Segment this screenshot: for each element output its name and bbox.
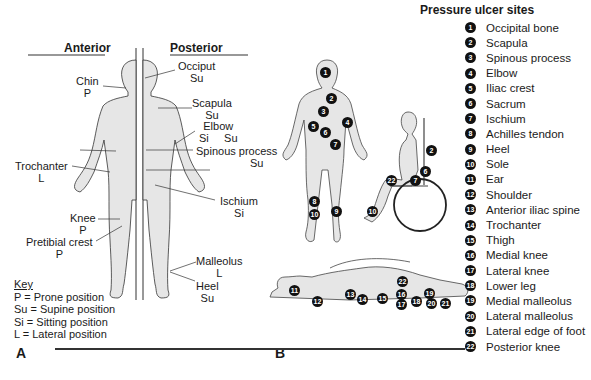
marker-7: 7 bbox=[330, 139, 341, 150]
number-badge-icon: 2 bbox=[465, 37, 476, 48]
number-badge-icon: 6 bbox=[465, 98, 476, 109]
number-badge-icon: 13 bbox=[465, 204, 476, 215]
number-badge-icon: 18 bbox=[465, 280, 476, 291]
bottom-divider bbox=[55, 348, 465, 350]
key-item: P = Prone position bbox=[14, 291, 115, 304]
number-badge-icon: 14 bbox=[465, 220, 476, 231]
marker-10: 10 bbox=[309, 209, 320, 220]
key-item: L = Lateral position bbox=[14, 328, 115, 341]
legend-item: 14Trochanter bbox=[465, 217, 585, 232]
legend-item: 6Sacrum bbox=[465, 96, 585, 111]
label-heel: HeelSu bbox=[196, 280, 219, 304]
key-item: Si = Sitting position bbox=[14, 316, 115, 329]
number-badge-icon: 11 bbox=[465, 174, 476, 185]
position-key: Key P = Prone position Su = Supine posit… bbox=[14, 278, 115, 341]
legend-item: 17Lateral knee bbox=[465, 263, 585, 278]
legend-item: 9Heel bbox=[465, 142, 585, 157]
label-elbow: ElbowSi Su bbox=[199, 120, 238, 144]
marker-2: 2 bbox=[326, 93, 337, 104]
marker-5: 5 bbox=[308, 121, 319, 132]
label-chin: ChinP bbox=[76, 75, 99, 99]
legend-item: 22Posterior knee bbox=[465, 339, 585, 354]
number-badge-icon: 22 bbox=[465, 341, 476, 352]
legend-item: 5Iliac crest bbox=[465, 81, 585, 96]
marker-13: 13 bbox=[345, 289, 356, 300]
number-badge-icon: 4 bbox=[465, 68, 476, 79]
number-badge-icon: 7 bbox=[465, 113, 476, 124]
marker-11: 11 bbox=[289, 285, 300, 296]
legend-item: 3Spinous process bbox=[465, 50, 585, 65]
pressure-ulcer-legend: Pressure ulcer sites 1Occipital bone 2Sc… bbox=[420, 3, 585, 354]
marker-22: 22 bbox=[397, 276, 408, 287]
number-badge-icon: 19 bbox=[465, 295, 476, 306]
legend-item: 13Anterior iliac spine bbox=[465, 202, 585, 217]
marker-17: 17 bbox=[396, 299, 407, 310]
legend-item: 4Elbow bbox=[465, 66, 585, 81]
label-occiput: OcciputSu bbox=[178, 60, 215, 84]
marker-14: 14 bbox=[357, 294, 368, 305]
number-badge-icon: 3 bbox=[465, 52, 476, 63]
number-badge-icon: 10 bbox=[465, 159, 476, 170]
legend-item: 12Shoulder bbox=[465, 187, 585, 202]
legend-item: 16Medial knee bbox=[465, 248, 585, 263]
label-trochanter: TrochanterL bbox=[15, 160, 68, 184]
legend-item: 7Ischium bbox=[465, 111, 585, 126]
number-badge-icon: 1 bbox=[465, 22, 476, 33]
marker-3: 3 bbox=[318, 106, 329, 117]
legend-item: 1Occipital bone bbox=[465, 20, 585, 35]
number-badge-icon: 9 bbox=[465, 144, 476, 155]
key-item: Su = Supine position bbox=[14, 303, 115, 316]
number-badge-icon: 12 bbox=[465, 189, 476, 200]
label-malleolus: MalleolusL bbox=[196, 255, 242, 279]
label-knee: KneeP bbox=[70, 212, 96, 236]
marker-22: 22 bbox=[386, 175, 397, 186]
label-pretibial-crest: Pretibial crestP bbox=[26, 236, 93, 260]
marker-12: 12 bbox=[312, 296, 323, 307]
label-spinous-process: Spinous processSu bbox=[196, 145, 277, 169]
header-posterior: Posterior bbox=[170, 41, 223, 55]
marker-6: 6 bbox=[320, 127, 331, 138]
legend-item: 20Lateral malleolus bbox=[465, 309, 585, 324]
label-ischium: IschiumSi bbox=[220, 195, 258, 219]
label-scapula: ScapulaSu bbox=[192, 97, 232, 121]
marker-15: 15 bbox=[377, 293, 388, 304]
legend-item: 18Lower leg bbox=[465, 278, 585, 293]
marker-1: 1 bbox=[320, 67, 331, 78]
marker-10: 10 bbox=[367, 206, 378, 217]
legend-item: 10Sole bbox=[465, 157, 585, 172]
number-badge-icon: 20 bbox=[465, 311, 476, 322]
number-badge-icon: 8 bbox=[465, 128, 476, 139]
number-badge-icon: 16 bbox=[465, 250, 476, 261]
legend-item: 21Lateral edge of foot bbox=[465, 324, 585, 339]
marker-4: 4 bbox=[342, 117, 353, 128]
header-anterior: Anterior bbox=[64, 41, 111, 55]
legend-item: 11Ear bbox=[465, 172, 585, 187]
marker-9: 9 bbox=[331, 206, 342, 217]
legend-item: 19Medial malleolus bbox=[465, 293, 585, 308]
legend-item: 2Scapula bbox=[465, 35, 585, 50]
marker-8: 8 bbox=[309, 196, 320, 207]
number-badge-icon: 15 bbox=[465, 235, 476, 246]
number-badge-icon: 5 bbox=[465, 83, 476, 94]
legend-item: 15Thigh bbox=[465, 233, 585, 248]
number-badge-icon: 17 bbox=[465, 265, 476, 276]
panel-label-a: A bbox=[16, 345, 26, 361]
legend-title: Pressure ulcer sites bbox=[420, 3, 585, 17]
number-badge-icon: 21 bbox=[465, 326, 476, 337]
legend-item: 8Achilles tendon bbox=[465, 126, 585, 141]
key-title: Key bbox=[14, 278, 115, 291]
